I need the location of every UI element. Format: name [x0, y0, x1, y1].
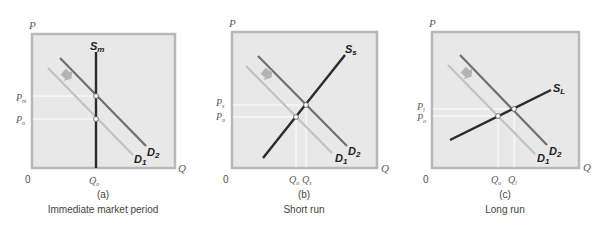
panel-letter: (b) — [298, 189, 310, 200]
quantity-label-ql: Ql — [508, 174, 517, 186]
price-label-ps: Ps — [215, 97, 225, 109]
supply-demand-time-periods-figure: P Q 0 Sm D2 D1 Pm Po Qo (a) Immediate ma… — [0, 0, 600, 228]
panel-letter: (c) — [499, 189, 511, 200]
quantity-label-qo: Qo — [491, 174, 501, 186]
equilibrium-point-new — [94, 94, 99, 99]
quantity-label-qo: Qo — [289, 174, 299, 186]
panel-caption: Long run — [485, 204, 524, 215]
price-label-po: Po — [15, 114, 25, 126]
price-label-po: Po — [416, 112, 426, 124]
panel-a-immediate-market-period: P Q 0 Sm D2 D1 Pm Po Qo (a) Immediate ma… — [15, 19, 186, 215]
quantity-label-qs: Qs — [302, 174, 312, 186]
panel-caption: Short run — [283, 204, 324, 215]
equilibrium-point-new — [512, 107, 517, 112]
price-label-po: Po — [215, 111, 225, 123]
origin-label: 0 — [423, 174, 429, 185]
axis-label-p: P — [28, 19, 36, 31]
equilibrium-point-new — [304, 103, 309, 108]
axis-label-q: Q — [583, 161, 591, 173]
axis-label-p: P — [228, 17, 236, 29]
equilibrium-point-old — [94, 117, 99, 122]
panel-caption: Immediate market period — [48, 204, 159, 215]
equilibrium-point-old — [496, 114, 501, 119]
panel-letter: (a) — [97, 189, 109, 200]
panel-c-long-run: P Q 0 SL D2 D1 Pl Po Qo Ql (c) Long run — [416, 17, 591, 215]
origin-label: 0 — [25, 174, 31, 185]
panel-b-short-run: P Q 0 Ss D2 D1 Ps Po Qo Qs (b) Short run — [215, 17, 389, 215]
origin-label: 0 — [223, 174, 229, 185]
quantity-label-qo: Qo — [89, 175, 99, 187]
price-label-pm: Pm — [15, 92, 27, 104]
equilibrium-point-old — [294, 115, 299, 120]
axis-label-q: Q — [381, 162, 389, 174]
axis-label-q: Q — [178, 162, 186, 174]
axis-label-p: P — [428, 17, 436, 29]
